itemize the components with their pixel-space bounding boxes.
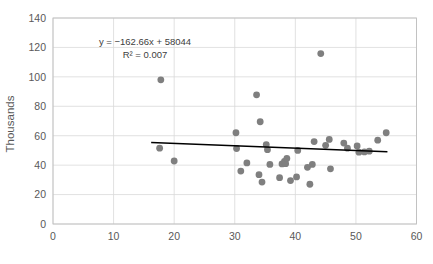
chart-canvas: 020406080100120140 0102030405060 Thousan…	[0, 0, 433, 264]
data-point	[157, 76, 164, 83]
x-tick-label: 60	[411, 230, 423, 242]
x-tick-label: 50	[350, 230, 362, 242]
y-tick-label: 60	[34, 130, 46, 142]
data-point	[326, 136, 333, 143]
data-point	[257, 118, 264, 125]
data-point	[233, 129, 240, 136]
data-point	[256, 171, 263, 178]
data-point	[287, 177, 294, 184]
x-tick-label: 30	[229, 230, 241, 242]
y-tick-label: 20	[34, 188, 46, 200]
data-point	[317, 50, 324, 57]
data-point	[322, 142, 329, 149]
data-point	[253, 91, 260, 98]
r-squared-label: R² = 0.007	[123, 49, 168, 60]
y-tick-label: 0	[40, 218, 46, 230]
x-tick-label: 20	[168, 230, 180, 242]
data-point	[383, 129, 390, 136]
data-point	[243, 160, 250, 167]
data-point	[374, 137, 381, 144]
data-point	[237, 168, 244, 175]
x-tick-label: 10	[108, 230, 120, 242]
data-point	[259, 179, 266, 186]
data-point	[266, 161, 273, 168]
data-point	[311, 138, 318, 145]
scatter-chart: 020406080100120140 0102030405060 Thousan…	[0, 0, 433, 264]
data-point	[276, 174, 283, 181]
x-tick-label: 40	[289, 230, 301, 242]
data-point	[327, 165, 334, 172]
y-axis-title: Thousands	[4, 95, 16, 152]
y-tick-label: 140	[28, 12, 46, 24]
x-tick-label: 0	[50, 230, 56, 242]
data-point	[306, 181, 313, 188]
y-tick-label: 100	[28, 71, 46, 83]
y-tick-label: 120	[28, 41, 46, 53]
data-point	[309, 161, 316, 168]
data-point	[283, 155, 290, 162]
data-point	[293, 174, 300, 181]
data-point	[354, 143, 361, 150]
data-point	[171, 158, 178, 165]
y-tick-label: 40	[34, 159, 46, 171]
data-point	[156, 145, 163, 152]
y-tick-label: 80	[34, 100, 46, 112]
trendline-equation-label: y = −162.66x + 58044	[99, 36, 191, 47]
